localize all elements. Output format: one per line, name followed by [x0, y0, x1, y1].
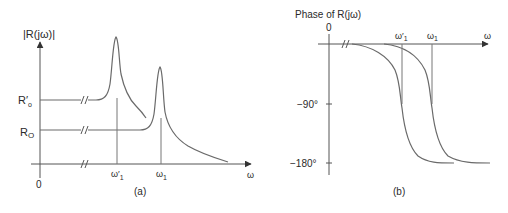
- phase-label-omega-1: ω1: [427, 31, 438, 42]
- break-icon-r-prime-o: [81, 96, 88, 104]
- magnitude-origin-label: 0: [36, 179, 42, 190]
- phase-curve-omega-1: [384, 44, 490, 163]
- phase-title: Phase of R(jω): [295, 9, 361, 20]
- caption-b: (b): [393, 186, 405, 197]
- label-minus-180: −180°: [290, 158, 317, 169]
- break-icon-r-o: [81, 126, 88, 134]
- caption-a: (a): [134, 186, 146, 197]
- phase-label-omega-prime-1: ω′1: [395, 31, 408, 42]
- phase-zero-label: 0: [326, 22, 332, 33]
- phase-curve-omega-prime-1: [352, 44, 454, 163]
- magnitude-y-label: |R(jω)|: [23, 28, 55, 40]
- label-omega-1: ω1: [156, 169, 167, 181]
- label-r-prime-o: R′o: [18, 94, 32, 108]
- magnitude-plot: |R(jω)| R′o RO 0 ω′1 ω1 ω (a): [18, 28, 254, 197]
- label-omega-prime-1: ω′1: [111, 169, 124, 181]
- curve-r-prime-o: [40, 37, 146, 118]
- curve-r-o: [40, 67, 228, 162]
- resonance-diagram: |R(jω)| R′o RO 0 ω′1 ω1 ω (a) Phase of R…: [0, 0, 508, 213]
- magnitude-x-label: ω: [247, 170, 254, 180]
- phase-plot: Phase of R(jω) 0 ω′1 ω1 ω −90° −180° (b): [290, 9, 491, 197]
- phase-x-label: ω: [484, 31, 491, 41]
- label-minus-90: −90°: [297, 99, 318, 110]
- label-r-o: RO: [20, 126, 34, 140]
